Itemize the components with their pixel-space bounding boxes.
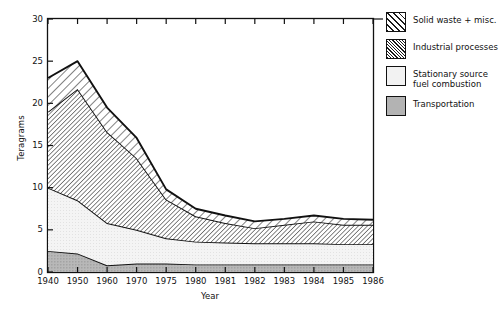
legend-item-transportation: Transportation: [386, 96, 504, 116]
x-axis-label: Year: [170, 291, 250, 301]
y-axis-label: Teragrams: [16, 98, 26, 178]
legend-label: Transportation: [413, 96, 474, 109]
x-tick-label: 1986: [350, 277, 396, 286]
legend-item-industrial-processes: Industrial processes: [386, 39, 504, 59]
legend-swatch-icon: [386, 39, 406, 59]
legend-label: Solid waste + misc.: [413, 12, 497, 25]
emissions-stacked-area-chart: Teragrams Year 051015202530 194019501960…: [0, 0, 504, 321]
legend-swatch-icon: [386, 96, 406, 116]
y-tick-label: 5: [19, 225, 43, 234]
y-tick-label: 20: [19, 99, 43, 108]
y-tick-label: 25: [19, 57, 43, 66]
legend-item-solid-waste-misc: Solid waste + misc.: [386, 12, 504, 32]
legend-item-stationary-source-fuel-combustion: Stationary source fuel combustion: [386, 66, 504, 89]
y-tick-label: 30: [19, 15, 43, 24]
chart-legend: Solid waste + misc.Industrial processesS…: [386, 12, 504, 123]
y-tick-label: 10: [19, 183, 43, 192]
legend-swatch-icon: [386, 66, 406, 86]
legend-label: Stationary source fuel combustion: [413, 66, 488, 89]
y-tick-label: 15: [19, 141, 43, 150]
legend-label: Industrial processes: [413, 39, 498, 52]
legend-swatch-icon: [386, 12, 406, 32]
